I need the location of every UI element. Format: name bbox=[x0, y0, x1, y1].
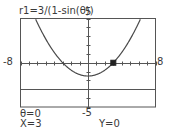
axes bbox=[21, 19, 157, 108]
trace-cursor[interactable] bbox=[111, 60, 116, 65]
graph-area[interactable] bbox=[0, 0, 170, 139]
